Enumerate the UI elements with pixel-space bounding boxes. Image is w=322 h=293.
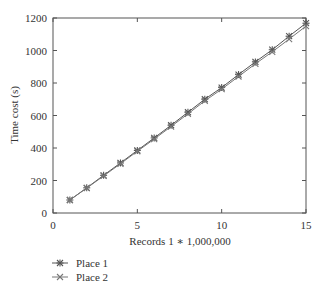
y-tick-label: 800 [31,77,48,89]
legend: Place 1Place 2 [52,257,108,283]
legend-label: Place 2 [76,271,108,283]
y-tick-label: 400 [31,142,48,154]
line-chart: 020040060080010001200051015 Time cost (s… [0,0,322,293]
x-axis-label: Records 1 ∗ 1,000,000 [129,235,231,247]
y-tick-label: 1000 [25,45,48,57]
plot-frame [53,18,306,213]
star-marker-icon [57,260,64,267]
legend-label: Place 1 [76,257,108,269]
x-tick-label: 15 [301,219,313,231]
y-tick-label: 600 [31,110,48,122]
x-tick-label: 10 [216,219,228,231]
legend-item-2: Place 2 [52,271,108,283]
x-tick-label: 0 [50,219,56,231]
plot-area: 020040060080010001200051015 [25,12,312,231]
y-tick-label: 200 [31,175,48,187]
legend-item-1: Place 1 [52,257,108,269]
y-tick-label: 0 [42,207,48,219]
y-axis-label: Time cost (s) [8,86,21,144]
y-tick-label: 1200 [25,12,48,24]
x-tick-label: 5 [135,219,141,231]
